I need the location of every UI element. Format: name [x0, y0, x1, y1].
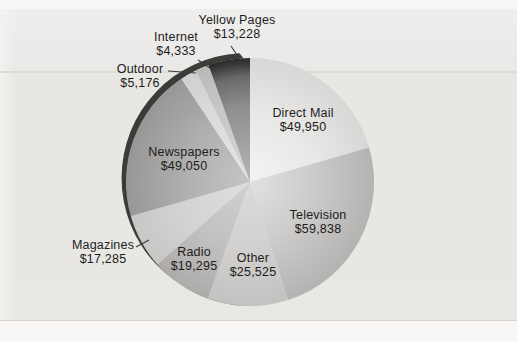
slice-name: Television: [290, 208, 347, 222]
slice-value: $49,050: [161, 159, 208, 173]
slice-name: Newspapers: [148, 145, 219, 159]
label-radio: Radio $19,295: [171, 246, 218, 273]
label-outdoor: Outdoor $5,176: [117, 63, 164, 90]
slice-value: $13,228: [214, 27, 261, 41]
slice-name: Yellow Pages: [199, 13, 276, 27]
label-other: Other $25,525: [230, 252, 277, 279]
label-newspapers: Newspapers $49,050: [148, 146, 219, 173]
slice-value: $49,950: [280, 120, 327, 134]
slice-value: $25,525: [230, 265, 277, 279]
slice-name: Other: [237, 251, 269, 265]
slice-value: $59,838: [295, 222, 342, 236]
slice-name: Magazines: [72, 238, 134, 252]
label-yellow-pages: Yellow Pages $13,228: [199, 14, 276, 41]
label-direct-mail: Direct Mail $49,950: [272, 107, 333, 134]
slice-name: Direct Mail: [272, 106, 333, 120]
label-television: Television $59,838: [290, 209, 347, 236]
slice-value: $19,295: [171, 259, 218, 273]
scanned-pie-chart-figure: Direct Mail $49,950 Television $59,838 O…: [0, 0, 517, 342]
slice-value: $17,285: [80, 252, 127, 266]
slice-name: Radio: [177, 245, 211, 259]
slice-name: Internet: [154, 30, 198, 44]
slice-name: Outdoor: [117, 62, 164, 76]
slice-value: $4,333: [156, 44, 195, 58]
label-magazines: Magazines $17,285: [72, 239, 134, 266]
slice-value: $5,176: [120, 76, 159, 90]
label-internet: Internet $4,333: [154, 31, 198, 58]
pie-chart-svg: [0, 0, 517, 342]
